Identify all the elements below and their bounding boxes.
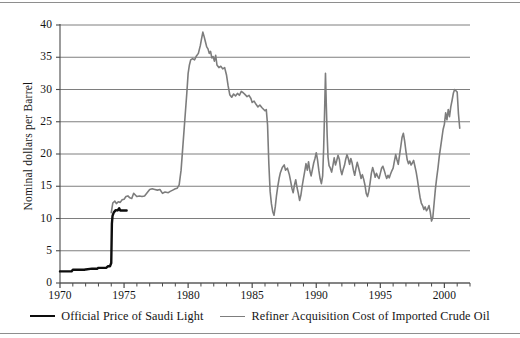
- y-tick-label: 15: [22, 179, 52, 191]
- legend: Official Price of Saudi Light Refiner Ac…: [0, 305, 520, 327]
- y-tick-label: 10: [22, 212, 52, 224]
- legend-swatch-icon: [30, 315, 55, 317]
- x-tick-label: 1985: [230, 289, 274, 301]
- x-axis-ticks: [60, 283, 470, 288]
- legend-item-saudi-light: Official Price of Saudi Light: [30, 309, 203, 324]
- y-tick-label: 30: [22, 83, 52, 95]
- y-tick-label: 25: [22, 115, 52, 127]
- legend-label: Refiner Acquisition Cost of Imported Cru…: [251, 309, 489, 324]
- y-tick-label: 35: [22, 50, 52, 62]
- legend-label: Official Price of Saudi Light: [61, 309, 203, 324]
- line-chart: [0, 0, 520, 338]
- legend-swatch-icon: [220, 316, 245, 317]
- y-tick-label: 0: [22, 276, 52, 288]
- plot-area: [0, 0, 520, 338]
- gridlines: [60, 25, 470, 283]
- x-tick-label: 1970: [38, 289, 82, 301]
- y-tick-label: 5: [22, 244, 52, 256]
- x-tick-label: 1980: [166, 289, 210, 301]
- y-tick-label: 40: [22, 18, 52, 30]
- x-tick-label: 1975: [102, 289, 146, 301]
- x-tick-label: 1995: [358, 289, 402, 301]
- x-tick-label: 1990: [294, 289, 338, 301]
- axis-lines: [60, 24, 470, 283]
- x-tick-label: 2000: [422, 289, 466, 301]
- legend-item-refiner-cost: Refiner Acquisition Cost of Imported Cru…: [220, 309, 489, 324]
- data-series: [60, 32, 460, 271]
- figure: Nominal dollars per Barrel 0510152025303…: [0, 0, 520, 338]
- y-axis-ticks: [56, 25, 60, 283]
- y-tick-label: 20: [22, 147, 52, 159]
